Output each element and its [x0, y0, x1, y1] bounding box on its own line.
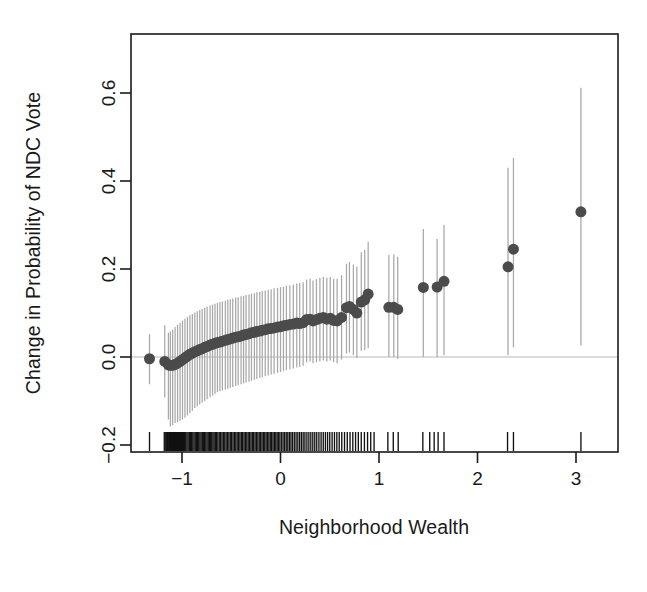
x-axis-ticks — [182, 452, 576, 463]
datapoint — [144, 353, 155, 364]
datapoint — [418, 282, 429, 293]
x-axis-tick-labels: −10123 — [171, 468, 581, 489]
datapoint — [439, 276, 450, 287]
y-tick-label: 0.0 — [98, 344, 119, 370]
x-tick-label: 2 — [472, 468, 483, 489]
y-axis-ticks — [120, 93, 131, 445]
x-tick-label: −1 — [171, 468, 193, 489]
y-axis-tick-labels: −0.20.00.20.40.6 — [98, 80, 119, 464]
datapoint — [336, 312, 347, 323]
x-tick-label: 3 — [571, 468, 582, 489]
y-tick-label: 0.4 — [98, 167, 119, 194]
y-tick-label: −0.2 — [98, 426, 119, 464]
datapoint — [392, 304, 403, 315]
x-tick-label: 0 — [275, 468, 286, 489]
rug-plot-group — [149, 432, 580, 451]
x-tick-label: 1 — [374, 468, 385, 489]
y-axis-title: Change in Probability of NDC Vote — [22, 92, 44, 394]
datapoint — [575, 206, 586, 217]
y-tick-label: 0.2 — [98, 256, 119, 282]
datapoint — [503, 261, 514, 272]
scatter-plot-svg: −10123 −0.20.00.20.40.6 Neighborhood Wea… — [0, 0, 647, 592]
datapoint — [508, 244, 519, 255]
errorbar-group — [149, 88, 580, 427]
y-tick-label: 0.6 — [98, 80, 119, 106]
x-axis-title: Neighborhood Wealth — [279, 516, 469, 538]
datapoint — [351, 308, 362, 319]
figure-container: −10123 −0.20.00.20.40.6 Neighborhood Wea… — [0, 0, 647, 592]
datapoint — [363, 289, 374, 300]
